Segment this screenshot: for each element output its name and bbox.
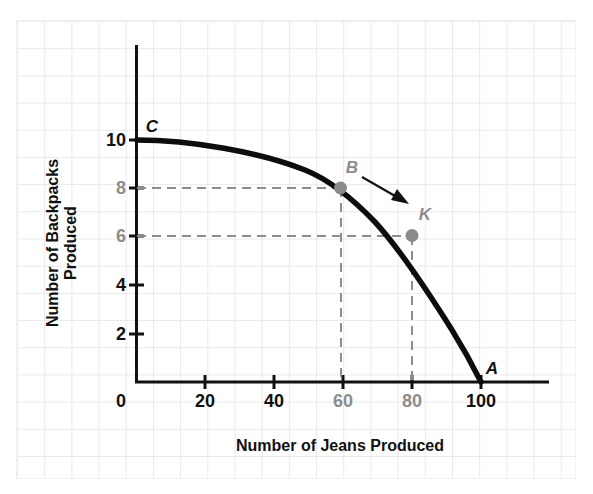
data-point-b-marker [334, 182, 347, 195]
x-tick-label-60: 60 [333, 392, 353, 410]
arrow-b-to-k [362, 177, 409, 204]
ppf-chart-figure: 10 8 6 4 2 0 20 40 60 80 100 C B K A Num… [0, 0, 593, 494]
y-tick-label-2: 2 [116, 325, 126, 343]
y-tick-label-8: 8 [116, 179, 126, 197]
x-tick-label-40: 40 [264, 392, 284, 410]
point-label-b: B [346, 159, 358, 176]
point-label-c: C [146, 118, 158, 135]
x-tick-label-80: 80 [402, 392, 422, 410]
data-point-k-marker [406, 229, 419, 242]
x-axis-title: Number of Jeans Produced [236, 437, 444, 455]
point-label-a: A [486, 360, 498, 377]
y-axis-title-line1: Number of Backpacks [44, 159, 61, 327]
y-axis-title-line2: Produced [62, 159, 80, 327]
y-tick-label-10: 10 [106, 131, 126, 149]
y-tick-label-6: 6 [116, 227, 126, 245]
y-axis-title: Number of Backpacks Produced [44, 159, 81, 327]
x-tick-label-100: 100 [466, 392, 496, 410]
y-tick-label-4: 4 [116, 276, 126, 294]
point-label-k: K [419, 206, 431, 223]
plot-area [0, 0, 593, 494]
ppf-curve [137, 140, 481, 382]
x-tick-label-0: 0 [116, 392, 126, 410]
x-tick-label-20: 20 [195, 392, 215, 410]
